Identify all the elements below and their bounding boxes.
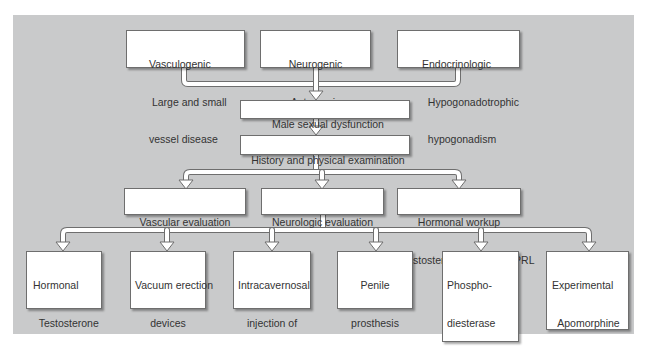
cause-neurogenic: Neurogenic Autonomic neuropathy: [260, 30, 371, 68]
cause-label: Endocrinologic: [422, 58, 515, 71]
condition-label: Male sexual dysfunction: [272, 118, 384, 130]
treatment-experimental: Experimental Apomorphine Melanocortin re…: [546, 251, 629, 330]
evaluation-hormonal: Hormonal workup Testosterone, LH, FSH, P…: [397, 188, 521, 215]
evaluation-label: Hormonal workup: [402, 216, 516, 229]
treatment-label: Phospho-: [447, 279, 514, 292]
evaluation-label: Vascular evaluation: [129, 216, 241, 229]
cause-label: Neurogenic: [265, 58, 366, 71]
treatment-detail: prosthesis: [342, 317, 408, 330]
condition-box: Male sexual dysfunction: [240, 100, 410, 119]
cause-vasculogenic: Vasculogenic Large and small vessel dise…: [126, 30, 245, 68]
treatment-label: diesterase: [447, 317, 514, 330]
cause-endocrinologic: Endocrinologic Hypogonadotrophic hypogon…: [397, 30, 520, 68]
treatment-vacuum: Vacuum erection devices: [130, 251, 206, 309]
cause-detail: Large and small: [149, 96, 240, 109]
treatment-intracavernosal: Intracavernosal injection of vasoactive …: [233, 251, 311, 309]
treatment-label: Intracavernosal: [238, 279, 306, 292]
treatment-label: Vacuum erection: [135, 279, 201, 292]
treatment-label: Penile: [342, 279, 408, 292]
assessment-label: History and physical examination: [251, 154, 405, 166]
cause-detail: Hypogonadotrophic: [422, 96, 515, 109]
treatment-hormonal: Hormonal Testosterone Bromocriptine: [26, 251, 102, 309]
treatment-label: Experimental: [552, 279, 624, 292]
cause-detail: hypogonadism: [422, 133, 515, 146]
treatment-pde5-inhibitors: Phospho- diesterase type V inhibitors ↑ …: [442, 251, 519, 342]
evaluation-vascular: Vascular evaluation: [124, 188, 246, 215]
cause-label: Vasculogenic: [149, 58, 240, 71]
treatment-detail: Testosterone: [33, 317, 97, 330]
evaluation-label: Neurologic evaluation: [266, 216, 379, 229]
cause-detail: vessel disease: [149, 133, 240, 146]
treatment-penile-prosthesis: Penile prosthesis: [337, 251, 413, 309]
treatment-detail: injection of: [238, 317, 306, 330]
treatment-detail: devices: [135, 317, 201, 330]
assessment-box: History and physical examination: [240, 135, 410, 155]
treatment-detail: Apomorphine: [552, 317, 624, 330]
evaluation-neurologic: Neurologic evaluation: [261, 188, 384, 215]
treatment-label: Hormonal: [33, 279, 97, 292]
